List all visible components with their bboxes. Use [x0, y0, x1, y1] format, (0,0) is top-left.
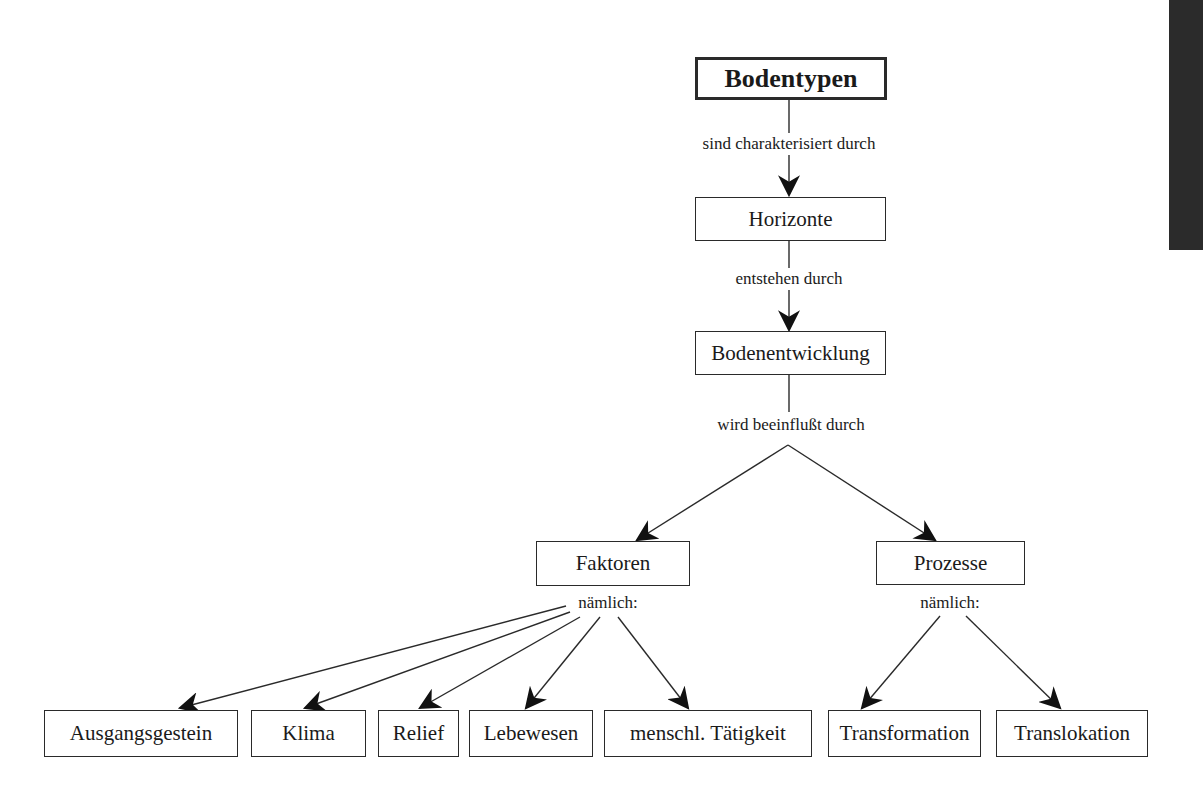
node-label: Klima [282, 721, 335, 746]
edge-label-prozesse-naemlich: nämlich: [918, 593, 981, 613]
edge-label-faktoren-naemlich: nämlich: [576, 593, 639, 613]
node-label: Ausgangsgestein [70, 721, 212, 746]
node-label: Horizonte [749, 207, 833, 232]
node-translokation: Translokation [996, 710, 1148, 757]
node-lebewesen: Lebewesen [469, 710, 593, 757]
node-bodentypen: Bodentypen [695, 57, 887, 100]
node-label: menschl. Tätigkeit [630, 721, 786, 746]
node-relief: Relief [378, 710, 459, 757]
node-horizonte: Horizonte [695, 197, 886, 241]
node-bodenentwicklung: Bodenentwicklung [695, 331, 886, 375]
node-label: Bodentypen [725, 64, 858, 94]
node-label: Prozesse [914, 551, 987, 576]
node-ausgangsgestein: Ausgangsgestein [44, 710, 238, 757]
node-label: Relief [393, 721, 444, 746]
node-faktoren: Faktoren [536, 541, 690, 586]
node-label: Faktoren [576, 551, 651, 576]
node-label: Translokation [1014, 721, 1130, 746]
node-menschl-taetigkeit: menschl. Tätigkeit [604, 710, 812, 757]
node-transformation: Transformation [828, 710, 981, 757]
node-klima: Klima [251, 710, 366, 757]
node-label: Lebewesen [484, 721, 578, 746]
edge-label-sind-charakterisiert-durch: sind charakterisiert durch [701, 134, 878, 154]
node-prozesse: Prozesse [876, 541, 1025, 585]
node-label: Transformation [840, 721, 970, 746]
edge-label-wird-beeinflusst-durch: wird beeinflußt durch [715, 415, 866, 435]
connector-lines [0, 0, 1203, 808]
node-label: Bodenentwicklung [711, 341, 870, 366]
edge-label-entstehen-durch: entstehen durch [733, 269, 844, 289]
